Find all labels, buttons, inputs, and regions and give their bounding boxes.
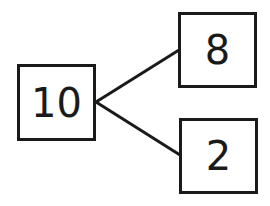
- whole-value: 10: [31, 83, 82, 123]
- connector-whole-to-part2: [96, 102, 180, 155]
- part-box-bottom: 2: [179, 118, 258, 194]
- part-value-top: 8: [205, 30, 230, 70]
- connector-whole-to-part1: [96, 50, 179, 102]
- part-value-bottom: 2: [206, 136, 231, 176]
- part-box-top: 8: [178, 12, 257, 88]
- whole-box: 10: [17, 64, 96, 141]
